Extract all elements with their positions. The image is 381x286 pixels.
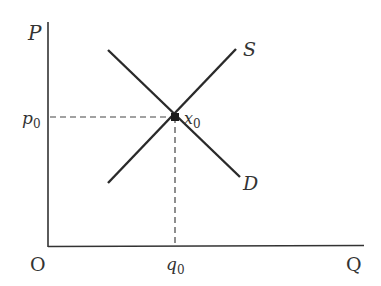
quantity-axis-label: Q [346, 253, 362, 275]
price-axis-label: P [27, 21, 42, 45]
price-equilibrium-label: p0 [22, 108, 41, 131]
quantity-equilibrium-label: q0 [166, 254, 185, 277]
equilibrium-point [171, 113, 179, 121]
origin-label: O [30, 253, 46, 275]
supply-demand-diagram: P O Q S D x0 p0 q0 [0, 0, 381, 286]
supply-label: S [243, 38, 256, 60]
quantity-axis [48, 246, 364, 247]
demand-label: D [242, 172, 258, 194]
equilibrium-label: x0 [184, 109, 201, 131]
